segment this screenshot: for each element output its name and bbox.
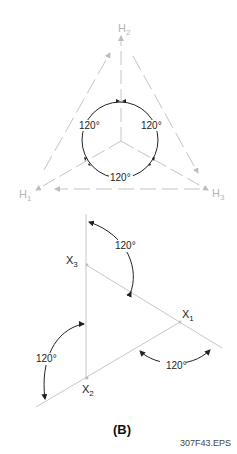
angle-circle (82, 102, 158, 178)
label-x3: X3 (66, 254, 78, 269)
angle-label-top: 120° (115, 240, 136, 251)
file-id: 307F43.EPS (180, 438, 231, 448)
label-h3: H3 (212, 187, 225, 202)
label-h1: H1 (19, 188, 32, 203)
label-h2: H2 (118, 22, 131, 37)
edge-left (44, 53, 110, 170)
angle-label-bottom: 120° (110, 172, 131, 183)
angle-label-left-bottom: 120° (36, 353, 57, 364)
bottom-diagram: 120° 120° 120° X3 X1 X2 (35, 214, 222, 407)
bottom-angle-labels: 120° 120° 120° (35, 240, 187, 372)
panel-label: (B) (113, 422, 131, 437)
center-axes (36, 36, 208, 190)
top-diagram: 120° 120° 120° H2 H1 H3 (19, 22, 225, 203)
outer-triangle (44, 53, 200, 189)
angle-label-right: 120° (141, 120, 162, 131)
hexagonal-axes-diagram: 120° 120° 120° H2 H1 H3 (0, 0, 237, 454)
angle-label-left: 120° (79, 120, 100, 131)
label-x2: X2 (82, 383, 94, 398)
axis-h3 (121, 141, 208, 190)
angle-label-right-bottom: 120° (166, 360, 187, 371)
top-angle-labels: 120° 120° 120° (78, 120, 166, 183)
axis-h1 (36, 141, 121, 190)
label-x1: X1 (182, 308, 194, 323)
line-x3-x1 (88, 266, 222, 348)
edge-right (133, 56, 198, 173)
arc-top (89, 222, 133, 294)
